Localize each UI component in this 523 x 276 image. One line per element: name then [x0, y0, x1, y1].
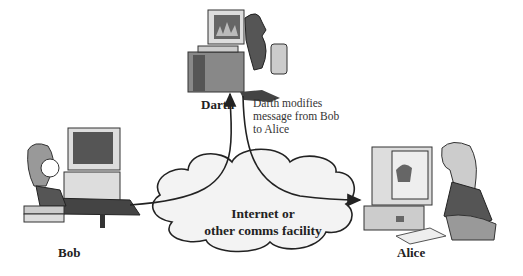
darth-illustration — [188, 10, 287, 102]
network-label-line-1: Internet or — [178, 205, 348, 222]
network-label: Internet or other comms facility — [178, 205, 348, 239]
alice-label: Alice — [397, 245, 425, 261]
bob-label: Bob — [58, 245, 80, 261]
bob-illustration — [24, 128, 140, 228]
network-label-line-2: other comms facility — [178, 222, 348, 239]
darth-label: Darth — [201, 97, 234, 113]
annotation-line-2: message from Bob — [253, 110, 339, 123]
annotation-line-1: Darth modifies — [253, 97, 339, 110]
modification-annotation: Darth modifies message from Bob to Alice — [253, 97, 339, 136]
annotation-line-3: to Alice — [253, 123, 339, 136]
alice-illustration — [364, 142, 496, 244]
